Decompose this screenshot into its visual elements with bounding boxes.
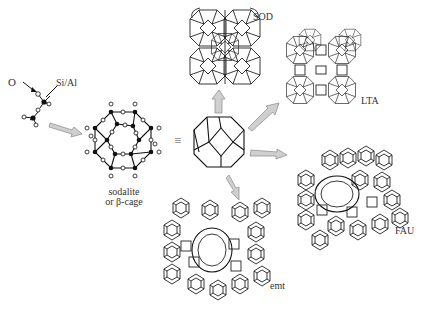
arrow-to-cage	[49, 123, 82, 137]
diagram-canvas	[0, 0, 432, 314]
fau-label: FAU	[395, 225, 414, 236]
arrow-to-lta	[248, 103, 279, 131]
arrow-to-fau	[250, 149, 287, 159]
arrow-to-sod	[212, 90, 225, 113]
sod-label: SOD	[253, 11, 273, 22]
sodalite-cage-polyhedron	[194, 117, 244, 167]
emt-label: emt	[270, 280, 285, 291]
sod-framework	[190, 8, 260, 84]
sodalite-ball-stick-model	[85, 102, 161, 178]
oxygen-label: O	[8, 77, 16, 88]
cage-label-line2: or β-cage	[94, 196, 154, 207]
equivalence-symbol: ≡	[174, 135, 181, 146]
si-al-label: Si/Al	[56, 77, 77, 88]
fau-framework	[298, 146, 408, 250]
arrow-to-emt	[226, 175, 239, 200]
lta-framework	[287, 29, 361, 103]
lta-label: LTA	[361, 95, 379, 106]
tetrahedral-fragment	[22, 82, 57, 127]
emt-framework	[164, 198, 270, 300]
